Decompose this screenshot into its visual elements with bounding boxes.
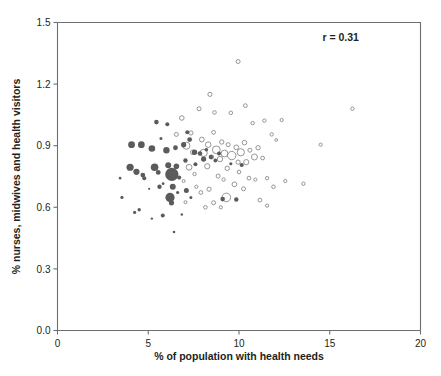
data-point xyxy=(138,141,145,148)
data-point xyxy=(213,111,217,115)
data-point xyxy=(119,177,122,180)
data-point xyxy=(174,132,178,136)
axis-spines xyxy=(58,23,421,331)
data-point xyxy=(180,116,185,121)
data-point xyxy=(193,162,197,166)
data-point xyxy=(176,191,179,194)
y-axis-title: % nurses, midwives and health visitors xyxy=(10,79,22,275)
data-point xyxy=(242,187,246,191)
data-point xyxy=(319,143,322,146)
y-tick-label: 0.6 xyxy=(37,202,51,213)
data-point xyxy=(133,211,136,214)
data-point xyxy=(128,141,135,148)
data-point xyxy=(151,217,153,219)
data-point xyxy=(247,176,251,180)
data-point xyxy=(165,162,171,168)
data-point xyxy=(265,176,268,179)
data-point xyxy=(165,122,169,126)
data-point xyxy=(133,169,139,175)
data-point xyxy=(201,156,206,161)
data-point xyxy=(351,107,354,110)
data-point xyxy=(162,182,165,185)
data-point xyxy=(142,176,146,180)
data-point xyxy=(137,208,140,211)
data-point xyxy=(198,151,203,156)
data-point xyxy=(251,121,254,124)
y-tick-label: 0.9 xyxy=(37,140,51,151)
data-point xyxy=(275,139,278,142)
data-point xyxy=(205,164,210,169)
data-point xyxy=(236,60,240,64)
data-point xyxy=(173,145,178,150)
data-point xyxy=(229,162,232,165)
scatter-plot-figure: 0.00.30.60.91.21.505101520 r = 0.31 % of… xyxy=(0,0,441,376)
data-point xyxy=(248,148,252,152)
data-point xyxy=(212,130,216,134)
x-tick-label: 15 xyxy=(324,338,336,349)
data-point xyxy=(156,170,161,175)
data-point xyxy=(234,197,238,201)
data-point xyxy=(169,200,174,205)
data-point xyxy=(212,201,216,205)
y-tick-label: 0.0 xyxy=(37,325,51,336)
data-point xyxy=(192,150,197,155)
data-point xyxy=(127,164,134,171)
data-point xyxy=(205,142,211,148)
data-point xyxy=(217,152,221,156)
axis-ticks xyxy=(54,23,421,335)
data-point xyxy=(217,156,222,161)
data-point xyxy=(181,213,183,215)
series-filled-points xyxy=(119,120,244,233)
data-point xyxy=(159,137,162,140)
data-point xyxy=(284,179,287,182)
data-point xyxy=(154,120,159,125)
data-point xyxy=(222,178,225,181)
plot-border xyxy=(58,23,421,331)
data-point xyxy=(219,206,222,209)
data-point xyxy=(251,154,257,160)
data-point xyxy=(225,166,229,170)
scatter-plot-svg: 0.00.30.60.91.21.505101520 r = 0.31 % of… xyxy=(0,0,441,376)
data-point xyxy=(270,133,273,136)
data-point xyxy=(221,150,228,157)
series-open-points xyxy=(174,60,354,210)
data-point xyxy=(189,196,192,199)
data-point xyxy=(149,145,156,152)
data-point xyxy=(199,191,203,195)
data-point xyxy=(244,160,249,165)
data-point xyxy=(184,201,187,204)
data-point xyxy=(193,172,196,175)
data-point xyxy=(258,198,262,202)
data-point xyxy=(182,180,185,183)
data-point xyxy=(261,156,265,160)
data-point xyxy=(207,187,211,191)
y-tick-label: 0.3 xyxy=(37,264,51,275)
data-point xyxy=(170,184,176,190)
data-point xyxy=(254,178,257,181)
data-point xyxy=(234,145,239,150)
data-point xyxy=(236,160,240,164)
data-point xyxy=(163,147,169,153)
data-point xyxy=(232,182,237,187)
data-point xyxy=(185,130,189,134)
data-point xyxy=(229,111,233,115)
axis-tick-labels: 0.00.30.60.91.21.505101520 xyxy=(37,17,427,348)
data-point xyxy=(242,140,247,145)
data-point xyxy=(183,158,187,162)
data-point xyxy=(177,175,181,179)
x-tick-label: 5 xyxy=(145,338,151,349)
data-point xyxy=(263,119,266,122)
data-point xyxy=(214,159,218,163)
chart-annotations: r = 0.31 xyxy=(322,31,359,43)
data-point xyxy=(226,143,230,147)
data-point xyxy=(209,155,213,159)
data-point xyxy=(120,196,123,199)
data-point xyxy=(205,148,209,152)
data-point xyxy=(237,149,244,156)
data-point xyxy=(181,142,186,147)
data-point xyxy=(197,107,201,111)
data-point xyxy=(240,163,244,167)
data-point xyxy=(237,170,241,174)
data-point xyxy=(220,140,224,144)
data-point xyxy=(266,204,269,207)
